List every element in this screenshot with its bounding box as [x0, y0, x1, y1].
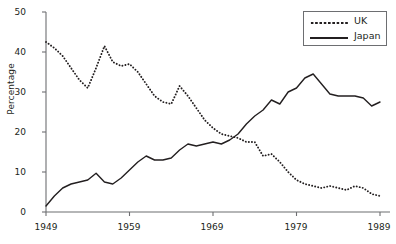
x-axis-ticks — [46, 212, 380, 216]
legend-swatch-dotted — [310, 22, 348, 24]
legend-swatch-solid — [310, 37, 348, 39]
legend-label-uk: UK — [354, 15, 367, 26]
data-series-layer — [46, 42, 380, 206]
legend-entry-japan: Japan — [304, 30, 388, 46]
line-chart: Percentage 50 40 30 20 10 0 1949 1959 19… — [0, 0, 396, 244]
legend-entry-uk: UK — [304, 15, 388, 31]
chart-legend: UK Japan — [303, 11, 387, 46]
legend-label-japan: Japan — [354, 30, 381, 41]
